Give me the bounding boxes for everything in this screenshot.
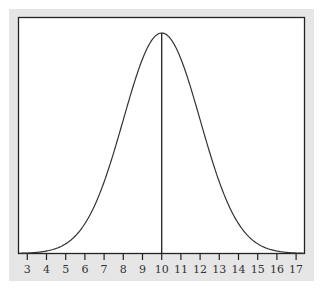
x-tick-label: 7 (101, 263, 108, 276)
x-tick-label: 13 (212, 263, 226, 276)
x-axis-labels: 34567891011121314151617 (24, 263, 303, 276)
x-tick-label: 12 (193, 263, 207, 276)
x-tick-label: 6 (81, 263, 88, 276)
x-tick-label: 9 (139, 263, 146, 276)
x-tick-label: 5 (62, 263, 69, 276)
x-tick-label: 8 (120, 263, 127, 276)
x-tick-label: 10 (155, 263, 169, 276)
x-tick-label: 16 (270, 263, 284, 276)
x-tick-label: 4 (43, 263, 50, 276)
x-tick-label: 14 (232, 263, 246, 276)
x-tick-label: 3 (24, 263, 31, 276)
x-tick-label: 11 (174, 263, 188, 276)
x-axis-ticks (27, 254, 296, 261)
x-tick-label: 15 (251, 263, 265, 276)
x-tick-label: 17 (289, 263, 303, 276)
bell-curve-chart: 34567891011121314151617 (0, 0, 326, 291)
